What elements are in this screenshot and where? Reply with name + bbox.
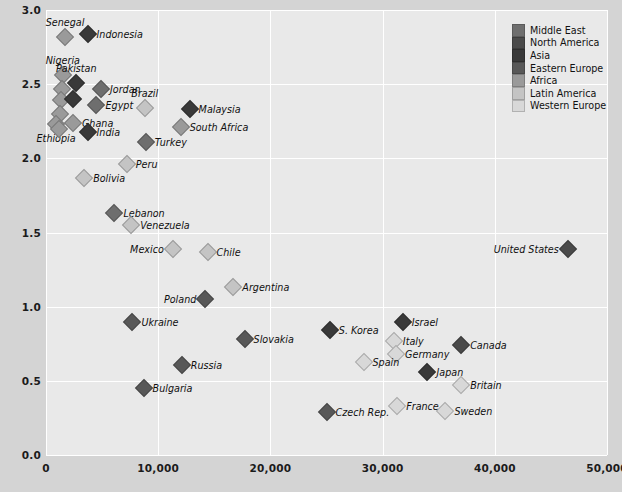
religiosity-vs-gdp-scatter-chart: Score on religiosity scale 0.00.51.01.52…	[0, 0, 622, 492]
data-point-marker[interactable]	[321, 321, 339, 339]
data-point-marker[interactable]	[452, 336, 470, 354]
legend-label: Africa	[530, 75, 557, 86]
legend-label: Asia	[530, 50, 550, 61]
legend-swatch	[512, 24, 525, 37]
data-point-label: Malaysia	[199, 104, 241, 115]
y-axis-tick: 0.0	[22, 449, 41, 461]
data-point-marker[interactable]	[180, 100, 198, 118]
x-axis-tick: 20,000	[250, 462, 292, 474]
legend-swatch	[512, 49, 525, 62]
data-point-marker[interactable]	[224, 278, 242, 296]
gridline-horizontal	[46, 455, 607, 456]
x-axis-tick: 50,000	[586, 462, 622, 474]
data-point-label: Senegal	[46, 17, 85, 28]
data-point-label: Italy	[403, 335, 424, 346]
gridline-vertical	[270, 10, 271, 455]
legend-label: North America	[530, 37, 599, 48]
data-point-label: Chile	[217, 246, 241, 257]
data-point-label: Argentina	[242, 282, 289, 293]
y-axis-tick: 2.5	[22, 78, 41, 90]
data-point-label: Pakistan	[56, 63, 97, 74]
legend-swatch	[512, 100, 525, 113]
data-point-label: India	[97, 126, 121, 137]
legend-item-north-america[interactable]: North America	[512, 37, 608, 50]
data-point-label: Turkey	[155, 137, 187, 148]
data-point-label: Poland	[164, 294, 196, 305]
data-point-marker[interactable]	[388, 397, 406, 415]
data-point-label: S. Korea	[339, 325, 379, 336]
legend-label: Latin America	[530, 88, 596, 99]
data-point-label: Spain	[373, 356, 400, 367]
legend-item-middle-east[interactable]: Middle East	[512, 24, 608, 37]
data-point-label: Egypt	[105, 99, 133, 110]
data-point-marker[interactable]	[418, 363, 436, 381]
legend-item-latin-america[interactable]: Latin America	[512, 87, 608, 100]
data-point-label: Mexico	[130, 243, 164, 254]
data-point-marker[interactable]	[123, 312, 141, 330]
y-axis-tick: 3.0	[22, 4, 41, 16]
x-axis-tick: 30,000	[362, 462, 404, 474]
data-point-marker[interactable]	[136, 99, 154, 117]
data-point-label: Czech Rep.	[336, 406, 390, 417]
data-point-label: Peru	[136, 159, 158, 170]
data-point-label: Bulgaria	[153, 383, 193, 394]
data-point-marker[interactable]	[452, 376, 470, 394]
data-point-marker[interactable]	[198, 243, 216, 261]
data-point-marker[interactable]	[105, 204, 123, 222]
data-point-marker[interactable]	[56, 27, 74, 45]
data-point-label: South Africa	[190, 122, 249, 133]
data-point-label: Venezuela	[140, 220, 189, 231]
data-point-label: United States	[494, 243, 559, 254]
legend-item-africa[interactable]: Africa	[512, 74, 608, 87]
data-point-label: Bolivia	[93, 172, 125, 183]
data-point-marker[interactable]	[317, 403, 335, 421]
gridline-horizontal	[46, 10, 607, 11]
data-point-label: Sweden	[454, 405, 492, 416]
data-point-label: Ukraine	[141, 316, 178, 327]
data-point-marker[interactable]	[92, 79, 110, 97]
legend-item-eastern-europe[interactable]: Eastern Europe	[512, 62, 608, 75]
legend-label: Eastern Europe	[530, 63, 603, 74]
data-point-marker[interactable]	[173, 355, 191, 373]
x-axis-tick: 10,000	[137, 462, 179, 474]
legend: Middle EastNorth AmericaAsiaEastern Euro…	[512, 24, 608, 112]
gridline-horizontal	[46, 381, 607, 382]
data-point-label: France	[406, 401, 439, 412]
y-axis-tick: 0.5	[22, 375, 41, 387]
data-point-marker[interactable]	[164, 240, 182, 258]
y-axis-tick: 2.0	[22, 152, 41, 164]
data-point-marker[interactable]	[354, 352, 372, 370]
data-point-label: Germany	[405, 349, 449, 360]
y-axis-tick: 1.5	[22, 227, 41, 239]
data-point-label: Russia	[191, 359, 222, 370]
legend-item-western-europe[interactable]: Western Europe	[512, 100, 608, 113]
data-point-label: Brazil	[131, 88, 158, 99]
data-point-marker[interactable]	[137, 133, 155, 151]
x-axis-tick-labels: 010,00020,00030,00040,00050,000	[0, 462, 622, 482]
legend-label: Western Europe	[530, 100, 606, 111]
gridline-vertical	[46, 10, 47, 455]
legend-label: Middle East	[530, 25, 585, 36]
data-point-marker[interactable]	[171, 118, 189, 136]
data-point-marker[interactable]	[87, 96, 105, 114]
x-axis-tick: 0	[42, 462, 50, 474]
legend-item-asia[interactable]: Asia	[512, 49, 608, 62]
y-axis-tick-labels: 0.00.51.01.52.02.53.0	[0, 0, 41, 492]
legend-swatch	[512, 74, 525, 87]
x-axis-tick: 40,000	[474, 462, 516, 474]
data-point-label: Indonesia	[97, 28, 143, 39]
data-point-marker[interactable]	[559, 240, 577, 258]
data-point-label: Israel	[412, 316, 438, 327]
legend-swatch	[512, 62, 525, 75]
legend-swatch	[512, 87, 525, 100]
legend-swatch	[512, 37, 525, 50]
data-point-label: Canada	[470, 340, 507, 351]
gridline-vertical	[383, 10, 384, 455]
data-point-marker[interactable]	[394, 312, 412, 330]
gridline-horizontal	[46, 307, 607, 308]
y-axis-tick: 1.0	[22, 301, 41, 313]
data-point-label: Slovakia	[254, 334, 294, 345]
data-point-label: Britain	[470, 380, 502, 391]
data-point-marker[interactable]	[235, 330, 253, 348]
data-point-marker[interactable]	[75, 168, 93, 186]
